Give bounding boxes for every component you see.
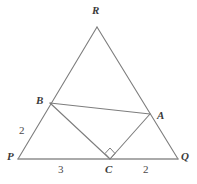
length-label-CQ: 2: [143, 164, 149, 175]
segment-BC: [50, 103, 110, 159]
vertex-label-Q: Q: [181, 151, 189, 162]
inner-triangle-abc: [50, 103, 150, 159]
vertex-label-B: B: [36, 95, 43, 106]
length-label-PB: 2: [19, 125, 25, 136]
segment-BA: [50, 103, 150, 114]
right-angle-icon: [105, 148, 115, 159]
side-PR: [18, 27, 97, 159]
vertex-label-R: R: [92, 5, 99, 16]
segment-CA: [110, 114, 150, 159]
vertex-label-C: C: [105, 164, 112, 175]
geometry-canvas: [0, 0, 197, 184]
outer-triangle-pqr: [18, 27, 178, 159]
vertex-label-P: P: [7, 151, 14, 162]
vertex-label-A: A: [157, 110, 164, 121]
side-RQ: [97, 27, 178, 159]
geometry-figure: P Q R A B C 2 3 2: [0, 0, 197, 184]
length-label-PC: 3: [58, 164, 64, 175]
